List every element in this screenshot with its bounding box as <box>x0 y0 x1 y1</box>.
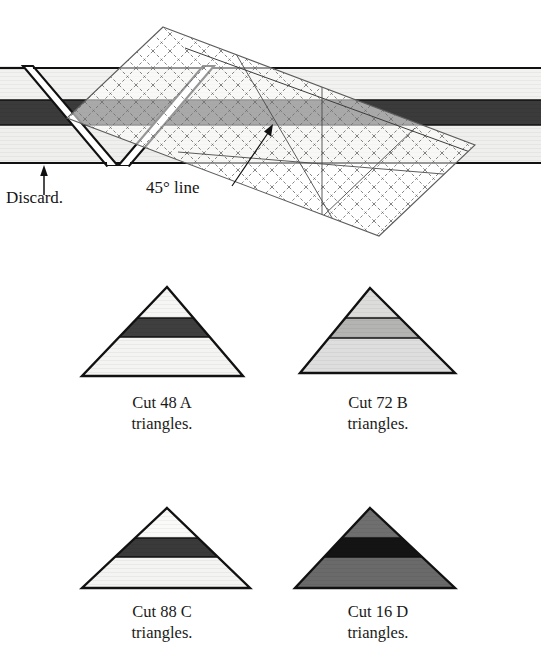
triangle-sample-C <box>70 500 265 595</box>
triangle-B-caption: Cut 72 B triangles. <box>278 392 478 434</box>
triangle-sample-A <box>70 280 260 382</box>
triangle-D-caption: Cut 16 D triangles. <box>278 601 478 643</box>
figure-canvas: Discard. 45° line <box>0 0 541 650</box>
sample-triangles <box>0 0 541 650</box>
triangle-sample-D <box>285 500 470 595</box>
triangle-C-caption: Cut 88 C triangles. <box>62 601 262 643</box>
triangle-sample-B <box>290 282 470 380</box>
triangle-A-caption: Cut 48 A triangles. <box>62 392 262 434</box>
